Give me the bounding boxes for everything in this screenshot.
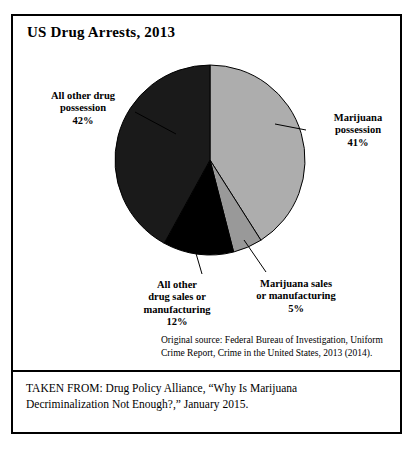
taken-from-caption: TAKEN FROM: Drug Policy Alliance, “Why I… xyxy=(26,380,381,413)
slice-label-all-other-drug-possession: All other drug possession 42% xyxy=(31,90,135,127)
figure-frame: US Drug Arrests, 2013 All other drug pos… xyxy=(11,14,402,434)
leader-marijuana-sales xyxy=(244,240,266,272)
slice-label-marijuana-possession: Marijuana possession 41% xyxy=(310,112,406,149)
pie-chart: All other drug possession 42% Marijuana … xyxy=(13,16,400,336)
caption-divider xyxy=(13,370,400,372)
original-source-note: Original source: Federal Bureau of Inves… xyxy=(161,334,399,360)
slice-label-all-other-drug-sales: All other drug sales or manufacturing 12… xyxy=(121,279,233,329)
slice-label-marijuana-sales: Marijuana sales or manufacturing 5% xyxy=(231,278,361,315)
pie-slice-group xyxy=(115,65,305,255)
